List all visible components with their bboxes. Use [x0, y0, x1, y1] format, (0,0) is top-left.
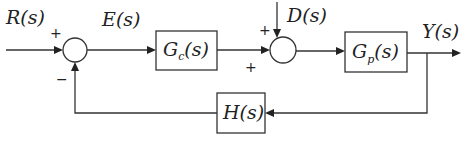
sum2-bottom-plus-sign: + — [245, 59, 257, 75]
controller-output-arrow-icon — [261, 46, 270, 54]
input-arrow-icon — [54, 46, 63, 54]
output-label: Y(s) — [422, 20, 459, 42]
feedback-sum-arrow-icon — [71, 62, 79, 71]
summing-junction-2 — [270, 37, 296, 63]
feedback-label: H(s) — [222, 101, 264, 123]
feedback-arrow-icon — [265, 109, 274, 117]
controller-label: Gc(s) — [163, 38, 209, 63]
output-arrow-icon — [452, 49, 461, 57]
sum2-top-plus-sign: + — [259, 22, 271, 38]
feedback-line-left — [75, 70, 217, 113]
plant-input-arrow-icon — [336, 47, 345, 55]
disturbance-label: D(s) — [286, 4, 327, 26]
error-arrow-icon — [147, 46, 156, 54]
sum1-plus-sign: + — [50, 25, 62, 41]
summing-junction-1 — [63, 38, 87, 62]
error-label: E(s) — [101, 8, 140, 30]
block-diagram: R(s) + − E(s) Gc(s) + + D(s) Gp(s) Y(s) … — [0, 0, 464, 144]
sum1-minus-sign: − — [56, 71, 68, 87]
reference-label: R(s) — [5, 6, 45, 28]
disturbance-arrow-icon — [273, 29, 281, 38]
